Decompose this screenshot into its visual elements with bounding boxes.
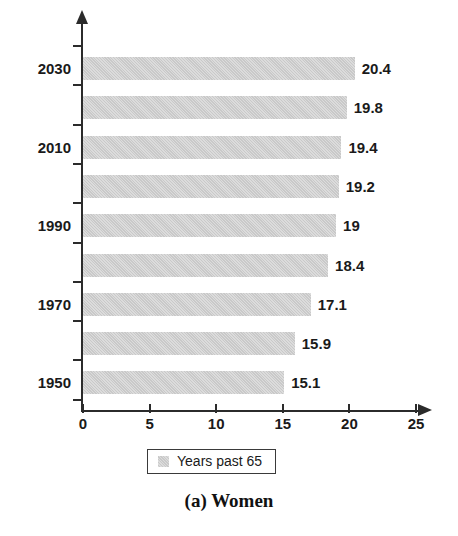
bar	[83, 136, 341, 159]
x-axis-label: 15	[263, 415, 303, 432]
bar-value-label: 20.4	[355, 57, 391, 80]
bar	[83, 96, 347, 119]
figure-women-years-past-65: 20.419.819.419.21918.417.115.915.1 20302…	[0, 0, 458, 536]
y-axis-label: 1990	[11, 217, 71, 234]
y-axis-tick	[73, 320, 82, 322]
x-axis-label: 20	[329, 415, 369, 432]
bar-value-label: 15.9	[295, 332, 331, 355]
bar	[83, 254, 328, 277]
bar-row: 19	[83, 206, 458, 245]
bar	[83, 57, 355, 80]
x-axis-tick	[282, 404, 284, 413]
bar-row: 15.1	[83, 363, 458, 402]
x-axis-label: 25	[396, 415, 436, 432]
y-axis-tick	[73, 242, 82, 244]
bar	[83, 293, 311, 316]
x-axis-label: 0	[63, 415, 103, 432]
bar	[83, 214, 336, 237]
bar-row: 15.9	[83, 324, 458, 363]
bar-value-label: 15.1	[284, 371, 320, 394]
bar-row: 19.4	[83, 128, 458, 167]
y-axis-tick	[73, 84, 82, 86]
y-axis-tick	[73, 281, 82, 283]
y-axis-tick	[73, 359, 82, 361]
bar-row: 19.2	[83, 167, 458, 206]
bar-value-label: 19.4	[341, 136, 377, 159]
x-axis-line	[81, 410, 420, 412]
bar-value-label: 19.8	[347, 96, 383, 119]
figure-caption: (a) Women	[0, 490, 458, 512]
bar-row: 19.8	[83, 88, 458, 127]
x-axis-label: 10	[196, 415, 236, 432]
chart-legend: Years past 65	[147, 449, 276, 474]
bar-row: 18.4	[83, 246, 458, 285]
x-axis-tick	[149, 404, 151, 413]
bar-row: 20.4	[83, 49, 458, 88]
y-axis-tick	[73, 202, 82, 204]
x-axis-tick	[82, 404, 84, 413]
legend-swatch-icon	[158, 456, 169, 467]
bar-value-label: 19	[336, 214, 360, 237]
y-axis-label: 1970	[11, 296, 71, 313]
y-axis-tick	[73, 124, 82, 126]
y-axis-tick	[73, 163, 82, 165]
y-axis-label: 2010	[11, 139, 71, 156]
x-axis-tick	[348, 404, 350, 413]
bar-value-label: 18.4	[328, 254, 364, 277]
bar-row: 17.1	[83, 285, 458, 324]
x-axis-tick	[215, 404, 217, 413]
bar	[83, 371, 284, 394]
bar-value-label: 17.1	[311, 293, 347, 316]
legend-label: Years past 65	[177, 453, 262, 469]
x-axis-tick	[415, 404, 417, 413]
x-axis-label: 5	[130, 415, 170, 432]
y-axis-tick	[73, 45, 82, 47]
bar-value-label: 19.2	[339, 175, 375, 198]
bar	[83, 175, 339, 198]
bar-chart-plot-area: 20.419.819.419.21918.417.115.915.1 20302…	[0, 0, 458, 436]
y-axis-label: 2030	[11, 60, 71, 77]
y-axis-label: 1950	[11, 374, 71, 391]
bar	[83, 332, 295, 355]
y-axis-tick	[73, 399, 82, 401]
y-axis-arrow-icon	[76, 10, 88, 24]
